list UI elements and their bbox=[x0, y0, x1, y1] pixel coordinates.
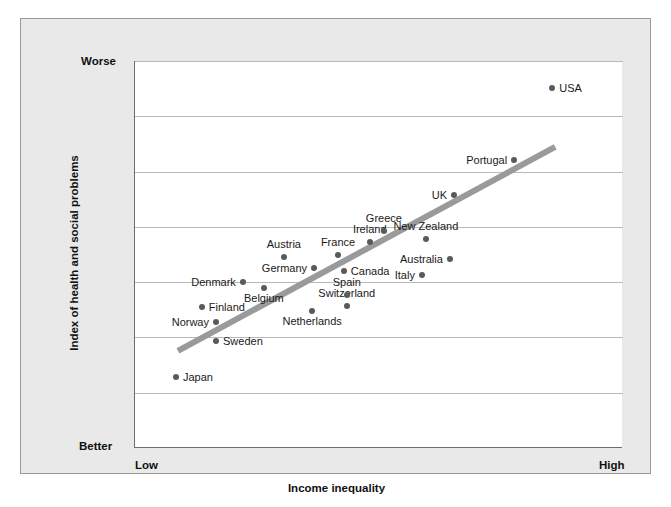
x-axis-title: Income inequality bbox=[21, 482, 652, 494]
data-point-label: Sweden bbox=[223, 336, 263, 347]
data-point[interactable] bbox=[261, 285, 267, 291]
data-point-label: Canada bbox=[351, 266, 390, 277]
data-point[interactable] bbox=[419, 272, 425, 278]
data-point[interactable] bbox=[213, 338, 219, 344]
data-point-label: France bbox=[321, 237, 355, 248]
data-point-label: Belgium bbox=[244, 293, 284, 304]
data-point-label: New Zealand bbox=[393, 221, 458, 232]
gridline bbox=[135, 337, 623, 338]
plot-area: JapanSwedenNorwayFinlandDenmarkBelgiumNe… bbox=[134, 61, 622, 448]
data-point-label: USA bbox=[559, 83, 582, 94]
data-point-label: Netherlands bbox=[282, 316, 341, 327]
data-point[interactable] bbox=[451, 192, 457, 198]
chart-panel: Index of health and social problems Wors… bbox=[20, 18, 651, 474]
data-point[interactable] bbox=[423, 236, 429, 242]
x-axis-right-label: High bbox=[599, 459, 625, 471]
y-axis-bottom-label: Better bbox=[79, 440, 112, 452]
data-point[interactable] bbox=[240, 279, 246, 285]
data-point[interactable] bbox=[311, 265, 317, 271]
gridline bbox=[135, 393, 623, 394]
data-point[interactable] bbox=[367, 239, 373, 245]
data-point[interactable] bbox=[173, 374, 179, 380]
y-axis-top-label: Worse bbox=[81, 55, 116, 67]
figure-container: Index of health and social problems Wors… bbox=[0, 0, 671, 507]
data-point-label: Italy bbox=[395, 270, 415, 281]
trendline bbox=[135, 61, 623, 448]
data-point[interactable] bbox=[447, 256, 453, 262]
gridline bbox=[135, 172, 623, 173]
data-point-label: Norway bbox=[172, 317, 209, 328]
data-point[interactable] bbox=[341, 268, 347, 274]
data-point[interactable] bbox=[213, 319, 219, 325]
data-point[interactable] bbox=[199, 304, 205, 310]
data-point[interactable] bbox=[381, 228, 387, 234]
data-point[interactable] bbox=[344, 292, 350, 298]
gridline bbox=[135, 116, 623, 117]
data-point[interactable] bbox=[511, 157, 517, 163]
data-point-label: UK bbox=[432, 189, 447, 200]
data-point-label: Japan bbox=[183, 372, 213, 383]
data-point-label: Austria bbox=[267, 239, 301, 250]
gridline bbox=[135, 61, 623, 62]
data-point-label: Spain bbox=[333, 277, 361, 288]
data-point-label: Germany bbox=[262, 263, 307, 274]
data-point[interactable] bbox=[344, 303, 350, 309]
x-axis-left-label: Low bbox=[135, 459, 158, 471]
y-axis-title: Index of health and social problems bbox=[68, 103, 80, 403]
data-point[interactable] bbox=[309, 308, 315, 314]
data-point-label: Finland bbox=[209, 302, 245, 313]
data-point-label: Australia bbox=[400, 254, 443, 265]
data-point[interactable] bbox=[335, 252, 341, 258]
data-point[interactable] bbox=[549, 85, 555, 91]
data-point[interactable] bbox=[281, 254, 287, 260]
data-point-label: Denmark bbox=[191, 276, 236, 287]
data-point-label: Portugal bbox=[466, 155, 507, 166]
